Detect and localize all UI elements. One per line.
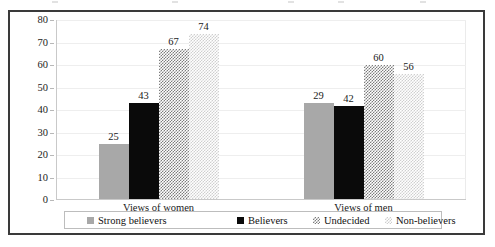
y-tick-mark [50,178,54,179]
y-axis: 80706050403020100 [10,20,54,200]
bar-value-label: 25 [94,131,134,142]
legend-swatch-icon [313,217,320,224]
legend-swatch-icon [87,217,94,224]
y-tick-mark [50,20,54,21]
legend-swatch-icon [385,217,392,224]
legend-item[interactable]: Believers [237,214,288,227]
plot-area: 2543677429426056 [56,20,466,200]
bar-value-label: 43 [124,90,164,101]
chart-frame: 80706050403020100 2543677429426056 Views… [8,10,485,235]
y-tick-label: 60 [38,60,49,70]
bar[interactable] [129,103,159,200]
legend-item[interactable]: Strong believers [87,214,167,227]
bar[interactable] [304,103,334,200]
bar-value-label: 67 [154,36,194,47]
bar-value-label: 42 [329,93,369,104]
y-tick-label: 10 [38,173,49,183]
y-tick-label: 0 [43,195,48,205]
chart-legend: Strong believersBelieversUndecidedNon-be… [64,211,442,229]
y-tick-label: 50 [38,83,49,93]
legend-label: Believers [248,215,288,226]
legend-label: Strong believers [98,215,167,226]
bar[interactable] [99,144,129,200]
bar-group: 29426056 [304,20,424,200]
y-tick-label: 30 [38,128,49,138]
y-tick-label: 80 [38,15,49,25]
y-tick-mark [50,43,54,44]
y-tick-label: 20 [38,150,49,160]
y-tick-mark [50,110,54,111]
bar[interactable] [189,34,219,201]
legend-swatch-icon [237,217,244,224]
bar[interactable] [364,65,394,200]
y-axis-line [56,20,57,200]
y-tick-mark [50,155,54,156]
y-tick-mark [50,65,54,66]
legend-item[interactable]: Undecided [313,214,369,227]
y-tick-mark [50,200,54,201]
x-axis-line [56,199,466,200]
y-tick-mark [50,133,54,134]
legend-item[interactable]: Non-believers [385,214,455,227]
bar-value-label: 56 [389,61,429,72]
legend-label: Non-believers [396,215,455,226]
bar-value-label: 74 [184,21,224,32]
legend-label: Undecided [324,215,369,226]
bar[interactable] [394,74,424,200]
bar[interactable] [159,49,189,200]
y-tick-label: 70 [38,38,49,48]
y-tick-label: 40 [38,105,49,115]
bar-group: 25436774 [99,20,219,200]
top-edge-artifact [0,0,495,9]
y-tick-mark [50,88,54,89]
bar[interactable] [334,106,364,201]
